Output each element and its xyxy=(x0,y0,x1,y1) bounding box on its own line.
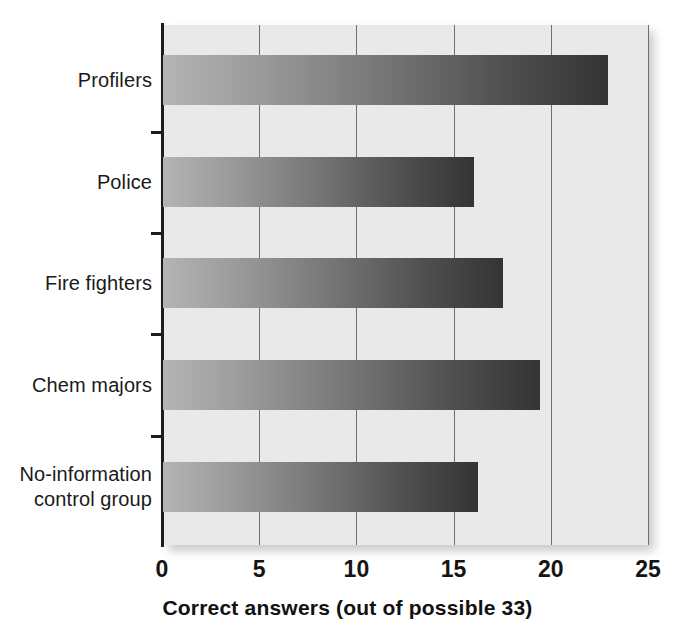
bar-chart-figure: Profilers Police Fire fighters Chem majo… xyxy=(0,0,683,635)
category-label-fire-fighters: Fire fighters xyxy=(0,271,152,296)
bar-chem-majors xyxy=(163,360,540,410)
y-axis-minor-tick xyxy=(151,232,163,235)
bar-control-group xyxy=(163,462,478,512)
y-axis-minor-tick xyxy=(151,435,163,438)
bar-profilers xyxy=(163,55,608,105)
y-axis-minor-tick xyxy=(151,333,163,336)
x-tick-label-20: 20 xyxy=(521,556,581,583)
category-label-chem-majors: Chem majors xyxy=(0,373,152,398)
x-tick-label-25: 25 xyxy=(618,556,678,583)
category-label-profilers: Profilers xyxy=(0,68,152,93)
x-tick-label-10: 10 xyxy=(326,556,386,583)
category-label-police: Police xyxy=(0,170,152,195)
gridline-25 xyxy=(648,25,649,545)
x-tick-label-0: 0 xyxy=(132,556,192,583)
x-tick-label-15: 15 xyxy=(424,556,484,583)
bar-police xyxy=(163,157,474,207)
category-label-control-group: No-information control group xyxy=(0,462,152,512)
x-tick-label-5: 5 xyxy=(229,556,289,583)
x-axis-title: Correct answers (out of possible 33) xyxy=(0,596,683,620)
bar-fire-fighters xyxy=(163,258,503,308)
y-axis-minor-tick xyxy=(151,131,163,134)
